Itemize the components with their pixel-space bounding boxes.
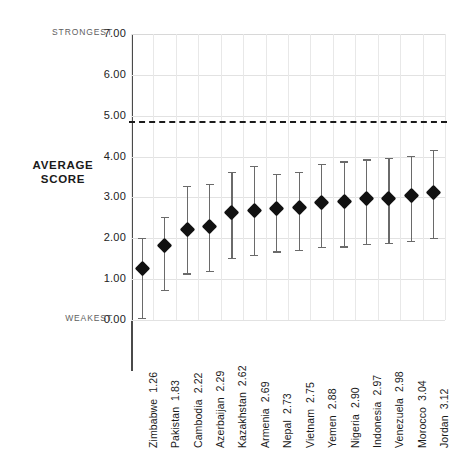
- x-axis-label-country: Yemen: [326, 415, 338, 448]
- x-axis-label-country: Kazakhstan: [236, 392, 248, 448]
- data-point-marker: [336, 194, 352, 210]
- y-tick-label: 6.00: [86, 68, 126, 80]
- x-axis-label-value: 1.83: [169, 380, 181, 401]
- data-point-marker: [134, 261, 150, 277]
- error-bar-cap-bottom: [206, 271, 214, 272]
- data-point-marker: [404, 188, 420, 204]
- data-point-marker: [157, 237, 173, 253]
- error-bar-cap-top: [206, 184, 214, 185]
- data-point-marker: [269, 201, 285, 217]
- x-axis-label-value: 3.04: [416, 380, 428, 401]
- error-bar-cap-top: [295, 172, 303, 173]
- gridline-vertical: [221, 34, 222, 320]
- error-bar-cap-bottom: [273, 251, 281, 252]
- error-bar-cap-bottom: [138, 318, 146, 319]
- error-bar-line: [142, 238, 143, 318]
- gridline-vertical: [378, 34, 379, 320]
- y-tick-label: 3.00: [86, 190, 126, 202]
- error-bar-cap-bottom: [295, 250, 303, 251]
- y-axis-title-line-2: SCORE: [13, 172, 113, 186]
- x-axis-label: Zimbabwe1.26: [147, 372, 159, 448]
- x-axis-label-country: Pakistan: [169, 407, 181, 448]
- error-bar-cap-bottom: [363, 244, 371, 245]
- gridline-vertical: [423, 34, 424, 320]
- error-bar-cap-top: [273, 174, 281, 175]
- x-axis-label-country: Nepal: [281, 420, 293, 448]
- x-axis-label: Cambodia2.22: [192, 372, 204, 448]
- y-tick-label: 5.00: [86, 109, 126, 121]
- gridline-vertical: [153, 34, 154, 320]
- reference-line: [129, 121, 447, 123]
- x-axis-label-value: 2.88: [326, 388, 338, 409]
- x-axis-label-value: 2.75: [304, 382, 316, 403]
- gridline-vertical: [176, 34, 177, 320]
- data-point-marker: [179, 222, 195, 238]
- error-bar-cap-top: [363, 159, 371, 160]
- x-axis-label-value: 1.26: [147, 372, 159, 393]
- x-axis-label: Indonesia2.97: [371, 375, 383, 448]
- error-bar-cap-top: [183, 186, 191, 187]
- x-axis-label-value: 2.97: [371, 375, 383, 396]
- error-bar-line: [164, 217, 165, 290]
- gridline-vertical: [288, 34, 289, 320]
- error-bar-cap-bottom: [407, 241, 415, 242]
- gridline-vertical: [243, 34, 244, 320]
- x-axis-label-value: 2.62: [236, 365, 248, 386]
- x-axis-label: Venezuela2.98: [393, 371, 405, 448]
- x-axis-label: Jordan3.12: [438, 388, 450, 448]
- data-point-marker: [202, 219, 218, 235]
- y-tick-label: 1.00: [86, 272, 126, 284]
- gridline-vertical: [266, 34, 267, 320]
- data-point-marker: [381, 190, 397, 206]
- y-tick-label: 2.00: [86, 231, 126, 243]
- data-point-marker: [247, 202, 263, 218]
- x-axis-label-value: 2.90: [349, 387, 361, 408]
- error-bar-cap-top: [228, 172, 236, 173]
- x-axis-label: Vietnam2.75: [304, 382, 316, 448]
- y-tick-label: 0.00: [86, 313, 126, 325]
- error-bar-cap-top: [250, 166, 258, 167]
- gridline-vertical: [310, 34, 311, 320]
- error-bar-cap-bottom: [161, 290, 169, 291]
- chart-container: STRONGEST WEAKEST AVERAGE SCORE 7.006.00…: [0, 0, 470, 453]
- error-bar-cap-top: [138, 238, 146, 239]
- error-bar-cap-top: [318, 164, 326, 165]
- x-axis-label-value: 2.73: [281, 393, 293, 414]
- error-bar-cap-bottom: [340, 246, 348, 247]
- gridline-vertical: [400, 34, 401, 320]
- x-axis-label: Armenia2.69: [259, 381, 271, 448]
- x-axis-label: Pakistan1.83: [169, 380, 181, 448]
- x-axis-label-country: Cambodia: [192, 399, 204, 448]
- x-axis-label: Kazakhstan2.62: [236, 365, 248, 448]
- x-axis-label-country: Morocco: [416, 407, 428, 448]
- gridline-vertical: [445, 34, 446, 320]
- gridline-vertical: [355, 34, 356, 320]
- error-bar-cap-top: [430, 150, 438, 151]
- data-point-marker: [291, 200, 307, 216]
- x-axis-label-value: 2.98: [393, 371, 405, 392]
- plot-area: [131, 34, 445, 320]
- x-axis-label: Azerbaijan2.29: [214, 371, 226, 448]
- error-bar-cap-bottom: [250, 255, 258, 256]
- data-point-marker: [224, 205, 240, 221]
- x-axis-label-country: Indonesia: [371, 402, 383, 448]
- x-axis-label-country: Armenia: [259, 408, 271, 448]
- error-bar-cap-bottom: [385, 243, 393, 244]
- error-bar-cap-top: [385, 158, 393, 159]
- x-axis-label: Nigeria2.90: [349, 387, 361, 448]
- x-axis-label-value: 2.22: [192, 372, 204, 393]
- gridline-vertical: [131, 34, 132, 320]
- x-axis-label-country: Jordan: [438, 415, 450, 448]
- x-axis-label: Yemen2.88: [326, 388, 338, 448]
- y-tick-label: 4.00: [86, 150, 126, 162]
- x-axis-label-value: 2.69: [259, 381, 271, 402]
- x-axis-label: Morocco3.04: [416, 380, 428, 448]
- x-axis-category-labels: Zimbabwe1.26Pakistan1.83Cambodia2.22Azer…: [131, 330, 445, 450]
- y-tick-label: 7.00: [86, 27, 126, 39]
- gridline-horizontal: [131, 320, 445, 321]
- x-axis-label-value: 2.29: [214, 371, 226, 392]
- x-axis-label-country: Nigeria: [349, 414, 361, 448]
- error-bar-cap-bottom: [228, 258, 236, 259]
- gridline-vertical: [198, 34, 199, 320]
- data-point-marker: [359, 191, 375, 207]
